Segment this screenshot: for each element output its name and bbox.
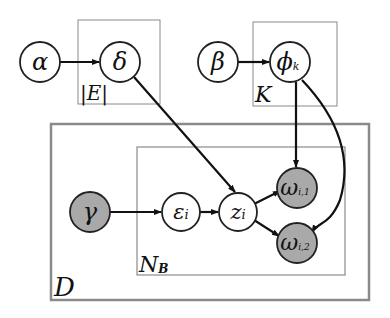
node-alpha: α (20, 42, 60, 82)
svg-text:γ: γ (83, 198, 98, 226)
node-omega1: ωi,1 (277, 168, 317, 208)
svg-text:α: α (32, 48, 48, 76)
svg-text:NB: NB (138, 252, 168, 277)
plate-nb-label: N (138, 252, 159, 277)
node-z: zi (219, 193, 257, 231)
node-epsilon: εi (162, 193, 200, 231)
edge-z-omega1 (254, 191, 280, 204)
edge-z-omega2 (254, 220, 279, 236)
edge-delta-z (134, 77, 235, 192)
graphical-model-diagram: |E| K D NB α δ β ϕk γ (0, 0, 390, 318)
plate-e-label: |E| (80, 81, 108, 106)
svg-text:δ: δ (113, 48, 127, 76)
edge-phi-omega2 (302, 80, 344, 232)
node-beta: β (198, 42, 238, 82)
node-delta: δ (100, 42, 140, 82)
node-gamma: γ (70, 192, 110, 232)
plate-d-label: D (53, 272, 75, 302)
svg-text:β: β (210, 48, 225, 76)
node-phi: ϕk (270, 42, 310, 82)
node-omega2: ωi,2 (277, 223, 317, 263)
plate-k-label: K (254, 82, 273, 107)
